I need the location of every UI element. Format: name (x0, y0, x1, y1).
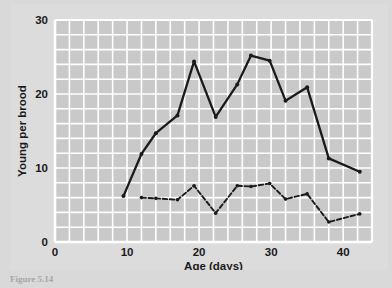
y-tick-label: 30 (35, 14, 48, 26)
x-tick-label: 20 (193, 246, 206, 258)
data-point (140, 196, 144, 200)
data-point (235, 184, 239, 188)
x-tick-label: 0 (52, 246, 58, 258)
y-tick-label: 0 (42, 236, 48, 248)
data-point (214, 115, 218, 119)
y-axis-title: Young per brood (16, 85, 28, 177)
data-point (235, 82, 239, 86)
data-point (176, 198, 180, 202)
data-point (358, 212, 362, 216)
x-tick-label: 40 (337, 246, 350, 258)
data-point (192, 184, 196, 188)
y-tick-label: 20 (35, 88, 48, 100)
data-point (284, 197, 288, 201)
data-point (327, 156, 331, 160)
data-point (284, 99, 288, 103)
data-point (249, 185, 253, 189)
data-point (327, 220, 331, 224)
data-point (268, 182, 272, 186)
data-point (175, 113, 179, 117)
x-axis-title: Age (days) (184, 260, 243, 270)
figure-caption-text: Figure 5.14 (10, 274, 382, 285)
data-point (154, 197, 158, 201)
chart-canvas: 0102030010203040 Age (days)Young per bro… (10, 4, 388, 270)
figure-caption: Figure 5.14 (10, 274, 382, 288)
data-point (139, 152, 143, 156)
data-point (249, 54, 253, 58)
data-point (154, 131, 158, 135)
x-tick-label: 30 (265, 246, 278, 258)
data-point (305, 85, 309, 89)
x-tick-label: 10 (121, 246, 134, 258)
data-point (358, 170, 362, 174)
data-point (268, 59, 272, 63)
figure-container: 0102030010203040 Age (days)Young per bro… (0, 0, 392, 288)
data-point (121, 194, 125, 198)
data-point (305, 192, 309, 196)
data-point (192, 59, 196, 63)
y-tick-label: 10 (35, 162, 48, 174)
data-point (214, 211, 218, 215)
figure-panel: 0102030010203040 Age (days)Young per bro… (10, 4, 388, 270)
